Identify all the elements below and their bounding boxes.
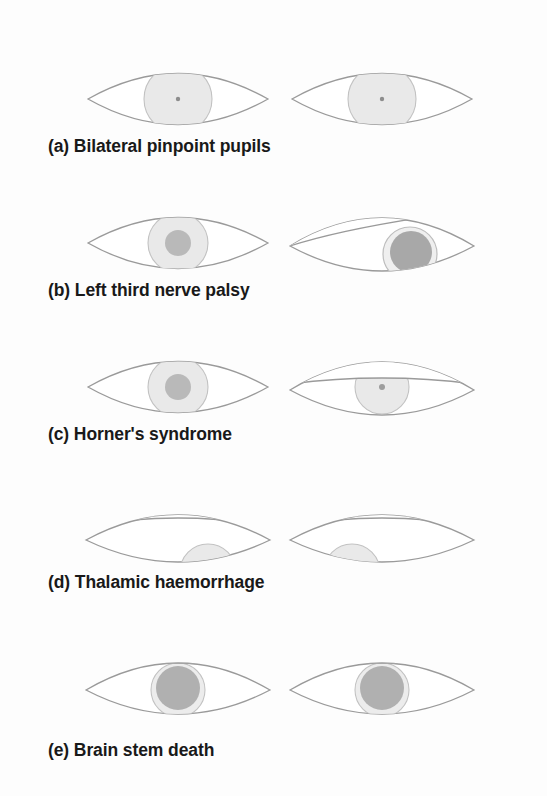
panel-b-label: (b) Left third nerve palsy	[48, 280, 250, 301]
eye-diagram-downward-medial-right	[282, 484, 482, 594]
panel-a-label: (a) Bilateral pinpoint pupils	[48, 136, 271, 157]
figure-pupillary-signs: (a) Bilateral pinpoint pupils	[0, 0, 547, 796]
panel-e-eyes	[0, 632, 547, 742]
eye-diagram-fixed-dilated-left	[78, 632, 278, 742]
panel-c-label: (c) Horner's syndrome	[48, 424, 232, 445]
panel-b-right-eye	[282, 188, 482, 298]
eye-diagram-fixed-dilated-right	[282, 632, 482, 742]
eye-diagram-horner-syndrome	[282, 332, 482, 442]
eye-diagram-third-nerve-palsy	[282, 188, 482, 298]
panel-d-right-eye	[282, 484, 482, 594]
panel-c-right-eye	[282, 332, 482, 442]
panel-d-label: (d) Thalamic haemorrhage	[48, 572, 264, 593]
panel-a-right-eye	[282, 44, 482, 154]
eye-diagram-pinpoint-right	[282, 44, 482, 154]
panel-e-left-eye	[78, 632, 278, 742]
panel-e-label: (e) Brain stem death	[48, 740, 214, 761]
panel-e-right-eye	[282, 632, 482, 742]
panel-e	[0, 632, 547, 742]
